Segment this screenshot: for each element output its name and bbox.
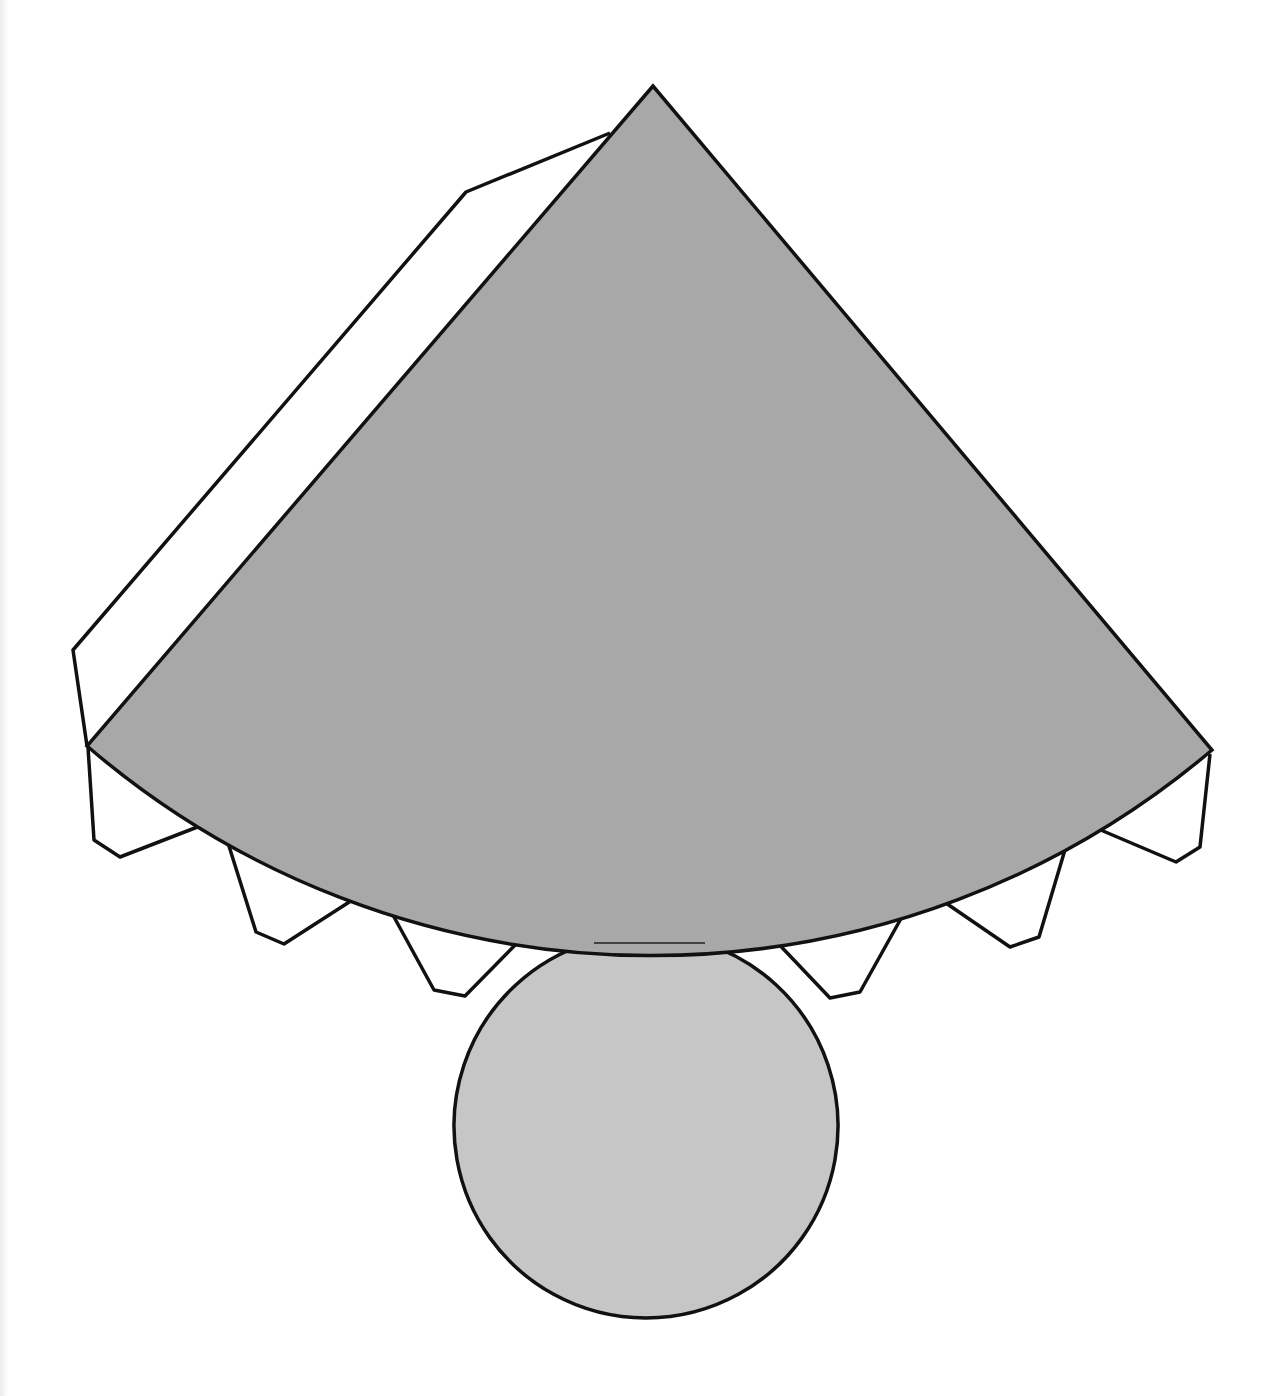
base-circle	[454, 943, 838, 1318]
cone-net-diagram	[0, 0, 1284, 1396]
